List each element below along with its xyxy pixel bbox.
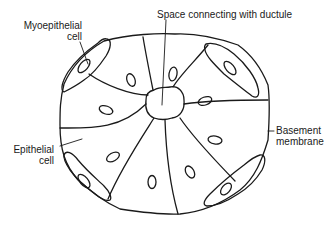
leader-epithelial [60,139,82,146]
central-lumen [146,87,184,120]
nucleus [183,164,196,179]
nucleus [197,95,213,107]
myoepithelial-cell-top-right [205,43,259,97]
myoepithelial-cell-bottom-left [64,152,111,200]
cell-boundary [173,45,208,87]
myoepithelial-cell-top-left [62,39,110,92]
label-space-duct: Space connecting with ductule [157,9,292,20]
cell-boundary [165,120,178,214]
label-myoepithelial-line2: cell [20,31,82,42]
cell-boundary [60,104,146,128]
label-epithelial-line1: Epithelial [4,144,54,155]
label-basement-line1: Basement [276,125,324,136]
nucleus [98,104,114,116]
label-epithelial-cell: Epithelial cell [4,144,54,166]
label-myoepithelial-cell: Myoepithelial cell [20,20,82,42]
cell-boundary [143,37,153,90]
leader-space-duct [162,20,166,105]
nucleus [125,73,137,88]
cell-boundary [108,118,154,199]
label-myoepithelial-line1: Myoepithelial [20,20,82,31]
nucleus [207,135,222,145]
nucleus [168,66,178,81]
cell-boundary [89,74,148,95]
label-basement-line2: membrane [276,136,324,147]
label-basement-membrane: Basement membrane [276,125,324,147]
label-epithelial-line2: cell [4,155,54,166]
cell-boundary [184,100,268,104]
nucleus [105,150,121,164]
nucleus [148,176,156,189]
cell-boundary [180,118,235,181]
